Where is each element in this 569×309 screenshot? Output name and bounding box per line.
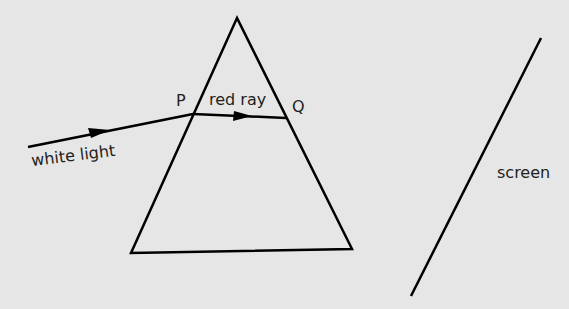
label-red-ray: red ray (209, 90, 266, 109)
label-p: P (176, 91, 186, 110)
label-screen: screen (497, 163, 550, 182)
label-q: Q (292, 97, 305, 116)
red-ray-arrow-icon (233, 111, 252, 121)
prism-diagram: white light P red ray Q screen (0, 0, 569, 309)
incident-arrow-icon (88, 128, 110, 138)
prism-triangle (131, 18, 352, 253)
